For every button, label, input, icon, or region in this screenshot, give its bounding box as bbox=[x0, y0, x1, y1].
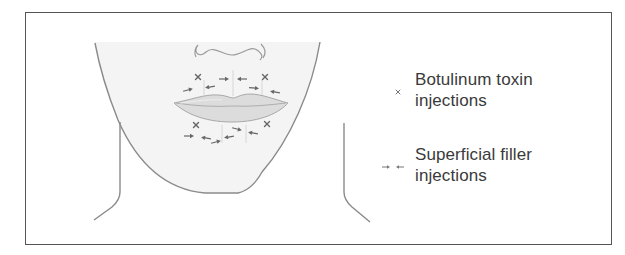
legend-filler-line1: Superficial filler bbox=[415, 145, 532, 165]
face-illustration bbox=[0, 0, 625, 255]
legend-botulinum-line2: injections bbox=[415, 91, 487, 111]
neck-outline-left bbox=[94, 122, 120, 220]
legend-x-mark-icon bbox=[396, 90, 400, 94]
neck-outline-right bbox=[344, 123, 370, 222]
legend-filler-line2: injections bbox=[415, 166, 487, 186]
legend-botulinum-line1: Botulinum toxin bbox=[415, 70, 533, 90]
legend-converging-arrows-icon bbox=[382, 165, 404, 169]
